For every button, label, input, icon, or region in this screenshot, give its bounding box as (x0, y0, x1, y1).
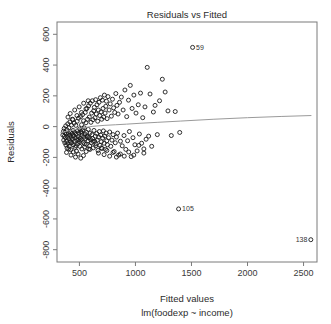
y-tick-label: -400 (41, 179, 51, 197)
y-tick-label: 400 (41, 58, 51, 73)
y-tick-label: 200 (41, 88, 51, 103)
y-tick-label: -200 (41, 148, 51, 166)
y-axis-title: Residuals (5, 121, 16, 163)
chart-title: Residuals vs Fitted (147, 9, 227, 20)
y-tick-label: 0 (41, 124, 51, 129)
y-tick-label: -800 (41, 241, 51, 259)
y-tick-label: 600 (41, 27, 51, 42)
residuals-vs-fitted-plot: Residuals vs Fitted 5001000150020002500 … (0, 0, 331, 324)
x-tick-label: 1500 (181, 268, 201, 278)
x-tick-label: 2500 (294, 268, 314, 278)
x-tick-label: 1000 (125, 268, 145, 278)
model-formula-label: lm(foodexp ~ income) (141, 307, 233, 318)
outlier-label: 105 (182, 205, 194, 212)
outlier-label: 59 (196, 44, 204, 51)
outlier-label: 138 (296, 236, 308, 243)
y-tick-label: -600 (41, 210, 51, 228)
x-axis-title: Fitted values (160, 293, 214, 304)
chart-page: Residuals vs Fitted 5001000150020002500 … (0, 0, 331, 324)
x-tick-label: 2000 (238, 268, 258, 278)
x-tick-label: 500 (72, 268, 87, 278)
